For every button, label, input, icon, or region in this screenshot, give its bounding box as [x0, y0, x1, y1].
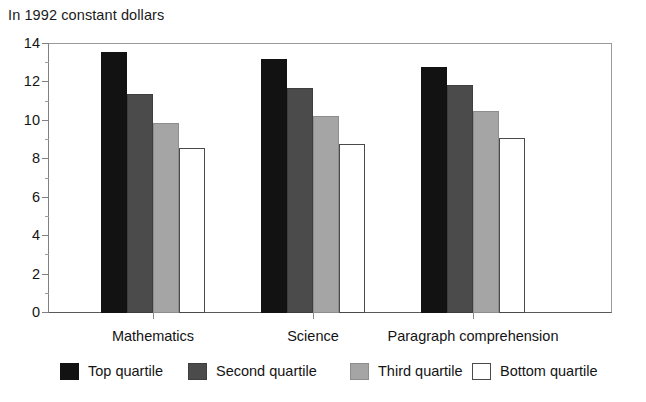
chart-legend: Top quartileSecond quartileThird quartil…: [0, 360, 646, 386]
bar: [339, 144, 365, 313]
x-axis-tick: [153, 313, 154, 319]
y-axis-tick-label: 10: [24, 113, 40, 128]
legend-label: Top quartile: [88, 363, 163, 379]
bar-group: [101, 44, 205, 313]
chart-caption: In 1992 constant dollars: [8, 6, 164, 24]
bar: [179, 148, 205, 313]
legend-item: Second quartile: [188, 360, 317, 382]
x-axis-ticks: [49, 313, 611, 320]
legend-swatch-icon: [472, 363, 491, 380]
bar-group: [421, 44, 525, 313]
y-axis-tick-label: 14: [24, 36, 40, 51]
y-axis-tick-label: 4: [32, 228, 40, 243]
bar: [313, 116, 339, 313]
bar: [287, 88, 313, 313]
y-axis-tick-label: 12: [24, 74, 40, 89]
y-axis-tick-label: 8: [32, 151, 40, 166]
x-axis-category-label: Science: [287, 326, 339, 346]
legend-label: Third quartile: [378, 363, 463, 379]
x-axis-tick: [313, 313, 314, 319]
y-axis-tick-label: 0: [32, 305, 40, 320]
y-axis-labels: 02468101214: [0, 43, 40, 313]
x-axis-tick: [473, 313, 474, 319]
x-axis-category-label: Mathematics: [112, 326, 194, 346]
legend-item: Top quartile: [60, 360, 163, 382]
x-axis-labels: MathematicsScienceParagraph comprehensio…: [0, 326, 646, 350]
y-axis-tick-label: 2: [32, 266, 40, 281]
bar-group: [261, 44, 365, 313]
legend-label: Second quartile: [216, 363, 317, 379]
bar: [499, 138, 525, 313]
y-axis-minor-ticks: [41, 43, 49, 313]
legend-swatch-icon: [60, 363, 79, 380]
legend-item: Third quartile: [350, 360, 463, 382]
bar: [261, 59, 287, 313]
x-axis-category-label: Paragraph comprehension: [388, 326, 559, 346]
bar: [153, 123, 179, 313]
bar: [127, 94, 153, 313]
y-axis-tick-label: 6: [32, 189, 40, 204]
legend-swatch-icon: [350, 363, 369, 380]
legend-item: Bottom quartile: [472, 360, 598, 382]
bar: [447, 85, 473, 313]
bar: [101, 52, 127, 313]
legend-swatch-icon: [188, 363, 207, 380]
bar: [473, 111, 499, 313]
bar: [421, 67, 447, 313]
bar-plot: [49, 44, 611, 313]
legend-label: Bottom quartile: [500, 363, 598, 379]
